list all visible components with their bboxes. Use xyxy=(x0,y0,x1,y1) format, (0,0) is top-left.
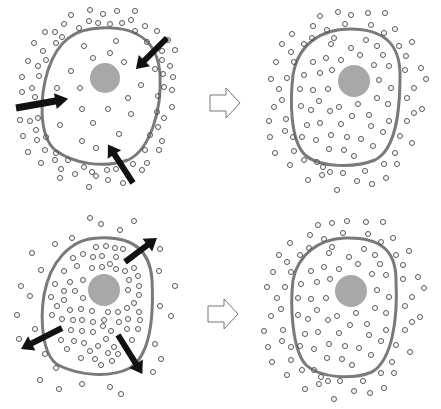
nucleus xyxy=(338,65,370,97)
diffusion-diagram xyxy=(0,0,441,409)
cell-membrane xyxy=(291,29,400,165)
nucleus xyxy=(88,274,120,306)
transition-arrow-top-icon xyxy=(210,88,240,118)
panel-bottom-left xyxy=(15,216,178,397)
outward-arrow-icon xyxy=(120,232,162,269)
panel-top-left xyxy=(15,8,178,190)
transition-arrow-bottom-icon xyxy=(208,299,238,329)
cell-membrane xyxy=(42,238,152,375)
panel-bottom-right xyxy=(262,219,427,402)
panel-top-right xyxy=(267,10,429,193)
cell-membrane xyxy=(292,238,397,377)
particles xyxy=(262,219,427,402)
nucleus xyxy=(90,63,120,93)
nucleus xyxy=(335,275,367,307)
inward-arrow-icon xyxy=(130,32,172,74)
